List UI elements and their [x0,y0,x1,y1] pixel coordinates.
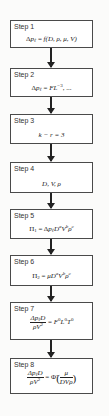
step-8-formula: ΔpℓD ρV2 = Φ̃( μ DVρ ) [11,369,92,386]
step-1-box: Step 1 Δpℓ = f(D, ρ, μ, V) [10,20,93,48]
step-1-label: Step 1 [14,23,34,31]
step-3-label: Step 3 [14,117,34,125]
step-2-label: Step 2 [14,71,34,79]
step-7-formula: ΔpℓD ρV2 = F0L0T0 [11,314,92,331]
step-7-label: Step 7 [14,305,34,313]
step-5-formula: Π1 = ΔpℓDaVbρc [11,225,92,233]
step-6-formula: Π2 = μDaVbρc [11,272,92,280]
step-4-formula: D, V, ρ [11,180,92,188]
step-4-box: Step 4 D, V, ρ [10,162,93,193]
step-8-fraction-left: ΔpℓD ρV2 [27,369,44,386]
arrow-3-4 [50,144,52,161]
arrow-4-5 [50,193,52,208]
arrow-7-8 [50,340,52,357]
step-5-label: Step 5 [14,212,34,220]
step-5-box: Step 5 Π1 = ΔpℓDaVbρc [10,209,93,239]
step-6-box: Step 6 Π2 = μDaVbρc [10,255,93,286]
step-1-formula: Δpℓ = f(D, ρ, μ, V) [11,35,92,43]
step-7-fraction: ΔpℓD ρV2 [30,314,47,331]
step-6-label: Step 6 [14,258,34,266]
step-8-fraction-right: μ DVρ [60,369,73,386]
step-2-formula: Δpℓ = FL−3, ... [11,84,92,92]
step-4-label: Step 4 [14,165,34,173]
step-3-formula: k − r = 3 [11,131,92,139]
step-7-box: Step 7 ΔpℓD ρV2 = F0L0T0 [10,302,93,340]
arrow-1-2 [50,48,52,67]
step-2-box: Step 2 Δpℓ = FL−3, ... [10,68,93,97]
step-8-label: Step 8 [14,361,34,369]
arrow-5-6 [50,239,52,254]
arrow-6-7 [50,286,52,301]
step-3-box: Step 3 k − r = 3 [10,114,93,144]
step-8-box: Step 8 ΔpℓD ρV2 = Φ̃( μ DVρ ) [10,358,93,394]
arrow-2-3 [50,97,52,113]
